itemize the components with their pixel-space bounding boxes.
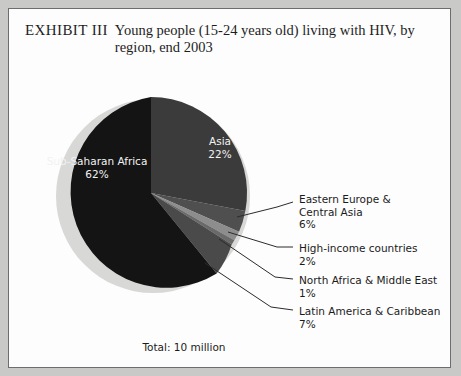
slice-label-sub-saharan-africa: Sub-Saharan Africa 62% xyxy=(27,155,167,181)
slice-label-asia-name: Asia xyxy=(185,135,255,148)
slice-label-eastern-europe-central-asia-line2: Central Asia xyxy=(299,206,391,219)
slice-label-north-africa-middle-east: North Africa & Middle East 1% xyxy=(299,274,437,299)
slice-label-eastern-europe-central-asia-line1: Eastern Europe & xyxy=(299,193,391,206)
slice-label-latin-america-caribbean-line1: Latin America & Caribbean xyxy=(299,305,440,318)
slice-label-north-africa-middle-east-percent: 1% xyxy=(299,287,437,300)
slice-label-sub-saharan-africa-percent: 62% xyxy=(27,168,167,181)
chart-total-label: Total: 10 million xyxy=(69,341,299,353)
slice-label-high-income-countries-percent: 2% xyxy=(299,255,418,268)
slice-label-asia-percent: 22% xyxy=(185,148,255,161)
slice-label-high-income-countries-line1: High-income countries xyxy=(299,242,418,255)
slice-label-latin-america-caribbean: Latin America & Caribbean 7% xyxy=(299,305,440,330)
slice-label-latin-america-caribbean-percent: 7% xyxy=(299,318,440,331)
exhibit-panel: EXHIBIT III Young people (15-24 years ol… xyxy=(8,8,451,368)
slice-label-sub-saharan-africa-name: Sub-Saharan Africa xyxy=(27,155,167,168)
slice-label-asia: Asia 22% xyxy=(185,135,255,161)
slice-label-eastern-europe-central-asia: Eastern Europe & Central Asia 6% xyxy=(299,193,391,231)
pie-chart: Sub-Saharan Africa 62% Asia 22% Eastern … xyxy=(9,9,451,368)
slice-label-north-africa-middle-east-line1: North Africa & Middle East xyxy=(299,274,437,287)
slice-label-high-income-countries: High-income countries 2% xyxy=(299,242,418,267)
slice-label-eastern-europe-central-asia-percent: 6% xyxy=(299,218,391,231)
